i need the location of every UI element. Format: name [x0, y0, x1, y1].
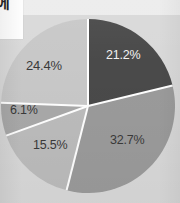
pie-slice-label-4: 6.1%	[10, 104, 38, 117]
page-top-margin-strip	[23, 0, 180, 15]
pie-chart-screenshot: 21.2% 32.7% 15.5% 6.1% 24.4% 에	[0, 0, 180, 203]
pie-slice-label-2: 32.7%	[110, 134, 144, 147]
pie-slice-label-5: 24.4%	[26, 59, 62, 72]
pie-slice-label-3: 15.5%	[33, 139, 67, 152]
overlay-corner-card: 에	[0, 0, 23, 39]
pie-slice-label-1: 21.2%	[106, 49, 140, 62]
corner-card-glyph: 에	[0, 0, 10, 11]
